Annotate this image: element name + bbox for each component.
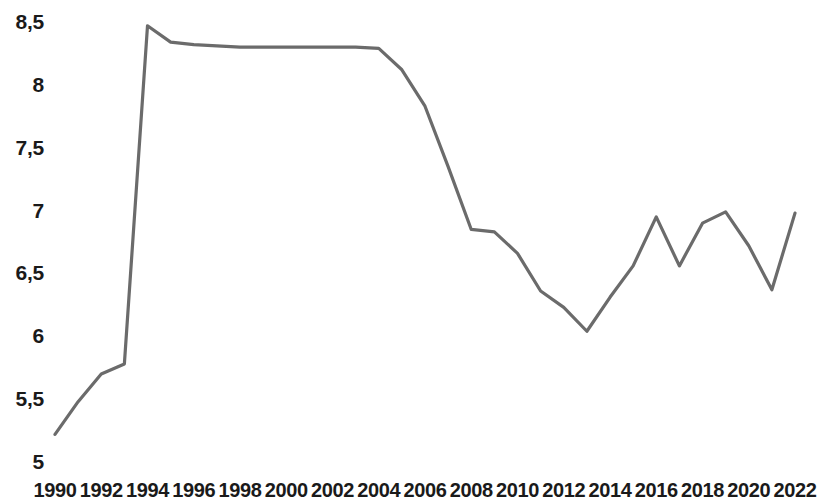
x-axis-tick-label: 2016: [635, 479, 678, 502]
data-series-line: [55, 26, 795, 435]
x-axis-tick-label: 2014: [589, 479, 632, 502]
x-axis-tick-label: 2010: [496, 479, 539, 502]
x-axis-tick-label: 2006: [404, 479, 447, 502]
x-axis-tick-label: 1998: [219, 479, 262, 502]
x-axis-tick-label: 1996: [172, 479, 215, 502]
x-axis-tick-label: 2002: [311, 479, 354, 502]
y-axis-tick-label: 7,5: [15, 136, 44, 160]
plot-area: [0, 0, 820, 474]
x-axis-tick-label: 1992: [80, 479, 123, 502]
plot-canvas: [0, 0, 820, 474]
y-axis-tick-label: 6,5: [15, 261, 44, 285]
y-axis-tick-label: 6: [33, 324, 44, 348]
x-axis-tick-label: 2012: [542, 479, 585, 502]
y-axis-tick-label: 5,5: [15, 387, 44, 411]
x-axis-tick-label: 2018: [681, 479, 724, 502]
y-axis-tick-label: 8,5: [15, 10, 44, 34]
x-axis-tick-label: 2008: [450, 479, 493, 502]
x-axis-tick-label: 2020: [727, 479, 770, 502]
x-axis-tick-label: 1994: [126, 479, 169, 502]
x-axis-tick-label: 2000: [265, 479, 308, 502]
y-axis-tick-label: 7: [33, 199, 44, 223]
line-chart: 55,566,577,588,5 19901992199419961998200…: [0, 0, 820, 504]
y-axis: 55,566,577,588,5: [0, 0, 52, 504]
y-axis-tick-label: 8: [33, 73, 44, 97]
y-axis-tick-label: 5: [33, 450, 44, 474]
x-axis-tick-label: 2022: [774, 479, 817, 502]
x-axis-tick-label: 1990: [34, 479, 77, 502]
x-axis-tick-label: 2004: [357, 479, 400, 502]
x-axis: 1990199219941996199820002002200420062008…: [0, 474, 820, 504]
